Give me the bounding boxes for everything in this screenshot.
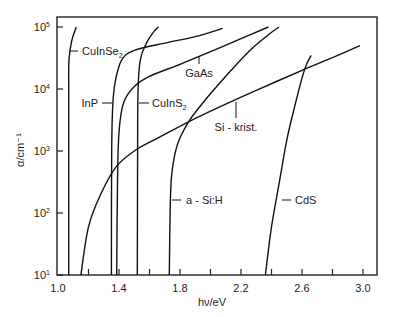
curve-label-cuins2: CuInS2 — [152, 97, 187, 111]
y-tick-label: 102 — [34, 207, 50, 219]
x-tick-label: 3.0 — [355, 282, 370, 294]
curve-label-inp: InP — [81, 97, 98, 109]
curve-label-cds: CdS — [295, 194, 316, 206]
absorption-chart: 1.01.41.82.22.63.0 101102103104105 CuInS… — [0, 0, 397, 317]
y-axis-label: α/cm⁻¹ — [14, 133, 26, 167]
y-tick-label: 105 — [34, 21, 50, 33]
x-tick-label: 1.0 — [50, 282, 65, 294]
curves — [69, 27, 360, 275]
curve-a-si-h — [169, 27, 279, 275]
curve-label-gaas: GaAs — [185, 67, 213, 79]
curve-si-kristallin — [81, 46, 360, 275]
curve-cuinse2 — [69, 27, 77, 275]
x-tick-label: 1.4 — [111, 282, 126, 294]
y-tick-label: 103 — [34, 145, 50, 157]
x-axis-ticks: 1.01.41.82.22.63.0 — [50, 269, 370, 294]
curve-label-si-kristallin: Si - krist. — [215, 121, 258, 133]
curve-label-a-si-h: a - Si:H — [186, 194, 223, 206]
curve-inp — [111, 28, 222, 275]
x-axis-label: hν/eV — [198, 296, 227, 308]
x-tick-label: 1.8 — [172, 282, 187, 294]
x-tick-label: 2.6 — [294, 282, 309, 294]
x-tick-label: 2.2 — [233, 282, 248, 294]
curve-label-cuinse2: CuInSe2 — [82, 45, 123, 59]
curve-cuins2 — [137, 27, 158, 275]
y-axis-ticks: 101102103104105 — [34, 21, 63, 281]
y-tick-label: 101 — [34, 269, 50, 281]
y-tick-label: 104 — [34, 83, 50, 95]
curve-cds — [265, 55, 311, 275]
